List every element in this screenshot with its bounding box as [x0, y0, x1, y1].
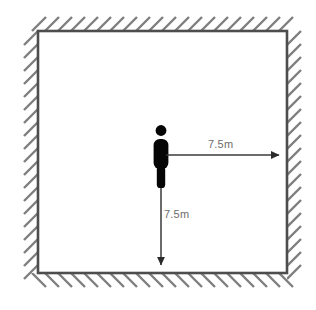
person-torso [154, 139, 169, 169]
floor-plan-svg [0, 0, 316, 310]
person-legs [157, 166, 165, 188]
hatch-right [287, 31, 301, 279]
hatch-left [24, 31, 38, 279]
vertical-distance-label: 7.5m [164, 209, 189, 220]
person-icon [154, 125, 169, 188]
hatch-top [32, 17, 293, 31]
hatch-bottom [32, 273, 293, 287]
diagram-canvas: 7.5m 7.5m [0, 0, 316, 310]
person-head [156, 125, 167, 136]
horizontal-distance-label: 7.5m [208, 139, 233, 150]
